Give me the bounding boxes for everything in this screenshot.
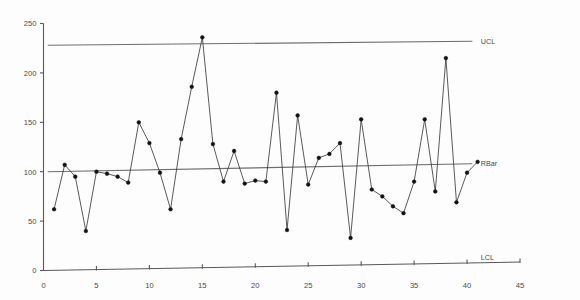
y-tick-label: 250 [24,19,37,28]
x-tick-label: 35 [410,281,418,290]
data-point-marker [338,141,342,145]
data-point-marker [465,171,469,175]
x-tick-label: 0 [41,281,45,290]
data-point-marker [275,91,279,95]
data-point-marker [190,85,194,89]
data-point-marker [243,182,247,186]
y-tick-label: 0 [32,266,36,275]
data-point-marker [317,156,321,160]
y-tick-label: 100 [24,168,37,177]
data-point-marker [179,137,183,141]
data-point-marker [264,180,268,184]
data-point-marker [95,170,99,174]
data-point-marker [200,35,204,39]
ucl-label: UCL [481,37,495,46]
x-tick-label: 40 [463,281,471,290]
data-point-marker [391,204,395,208]
data-point-marker [296,114,300,118]
data-point-marker [328,152,332,156]
data-point-marker [285,228,289,232]
data-point-marker [444,56,448,60]
data-point-marker [476,160,480,164]
lcl-label: LCL [481,253,494,262]
data-point-marker [433,190,437,194]
chart-canvas: 050100150200250 051015202530354045 UCLRB… [0,0,580,300]
control-chart: 050100150200250 051015202530354045 UCLRB… [0,0,580,300]
data-point-marker [412,180,416,184]
data-point-marker [105,172,109,176]
data-point-marker [126,181,130,185]
data-point-marker [232,149,236,153]
rbar-label: RBar [481,159,498,168]
data-point-marker [349,236,353,240]
data-point-marker [63,163,67,167]
x-tick-label: 25 [304,281,312,290]
data-point-marker [137,120,141,124]
data-point-marker [253,179,257,183]
data-point-marker [306,183,310,187]
data-point-marker [158,171,162,175]
data-point-marker [423,117,427,121]
data-point-marker [52,207,56,211]
x-tick-label: 30 [357,281,365,290]
data-point-marker [402,211,406,215]
y-tick-label: 50 [28,217,36,226]
data-point-marker [148,141,152,145]
x-tick-label: 10 [145,281,153,290]
data-point-marker [455,200,459,204]
data-point-marker [222,180,226,184]
data-point-marker [359,117,363,121]
data-point-marker [211,142,215,146]
x-tick-label: 15 [198,281,206,290]
data-point-marker [380,195,384,199]
data-point-marker [370,188,374,192]
data-point-marker [169,207,173,211]
x-tick-label: 20 [251,281,259,290]
x-tick-label: 5 [94,281,98,290]
data-point-marker [73,175,77,179]
data-point-marker [116,175,120,179]
y-tick-label: 150 [24,118,37,127]
x-tick-label: 45 [516,281,524,290]
y-tick-label: 200 [24,69,37,78]
data-point-marker [84,229,88,233]
